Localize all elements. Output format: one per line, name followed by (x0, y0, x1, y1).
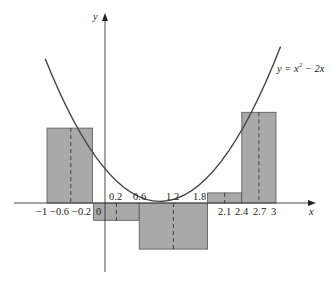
tick-label: −0.2 (72, 206, 91, 217)
riemann-rectangles (47, 112, 276, 249)
y-axis-label: y (92, 11, 98, 22)
rect-interval-1 (47, 128, 93, 203)
tick-label: 3 (271, 206, 276, 217)
tick-label: 2.7 (253, 206, 266, 217)
x-axis-label: x (308, 206, 314, 217)
y-axis-arrow-icon (102, 13, 108, 21)
tick-label: 0.6 (133, 191, 146, 202)
tick-label: 2.4 (235, 206, 249, 217)
tick-label: 1.2 (166, 191, 179, 202)
tick-label: 0.2 (109, 191, 122, 202)
curve-equation-label: y = x2 − 2x (276, 61, 325, 74)
tick-label: 2.1 (218, 206, 231, 217)
tick-label: 0 (96, 206, 101, 217)
tick-label: −0.6 (50, 206, 69, 217)
riemann-sum-chart: y x y = x2 − 2x −1 −0.6 −0.2 0 0.2 0.6 1… (0, 0, 334, 285)
tick-label: −1 (36, 206, 47, 217)
tick-label: 1.8 (193, 191, 206, 202)
